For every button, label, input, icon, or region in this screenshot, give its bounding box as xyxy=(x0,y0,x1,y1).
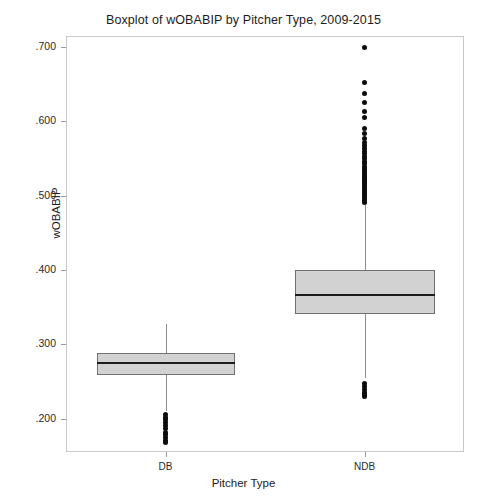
outlier-point xyxy=(362,80,367,85)
y-tick-mark xyxy=(61,121,66,122)
median-ndb xyxy=(295,294,435,296)
median-db xyxy=(97,362,235,364)
y-tick-label: .400 xyxy=(12,263,56,275)
outlier-point xyxy=(362,115,367,120)
y-tick-mark xyxy=(61,270,66,271)
whisker-lower-ndb xyxy=(365,314,366,378)
outlier-point xyxy=(163,440,168,445)
y-axis-title: wOBABIP xyxy=(50,153,62,273)
plot-area xyxy=(66,36,464,452)
y-tick-label: .200 xyxy=(12,412,56,424)
y-tick-label: .700 xyxy=(12,40,56,52)
x-axis-title: Pitcher Type xyxy=(0,477,487,489)
x-tick-label-db: DB xyxy=(126,461,206,472)
y-tick-label: .300 xyxy=(12,337,56,349)
y-tick-mark xyxy=(61,344,66,345)
y-tick-mark xyxy=(61,419,66,420)
outlier-point xyxy=(362,109,367,114)
y-tick-label: .500 xyxy=(12,189,56,201)
outlier-point xyxy=(362,394,367,399)
x-tick-label-ndb: NDB xyxy=(325,461,405,472)
y-tick-mark xyxy=(61,196,66,197)
boxplot-chart: Boxplot of wOBABIP by Pitcher Type, 2009… xyxy=(0,0,487,500)
whisker-lower-db xyxy=(166,375,167,411)
outlier-point xyxy=(362,45,367,50)
whisker-upper-db xyxy=(166,324,167,353)
whisker-upper-ndb xyxy=(365,205,366,270)
x-tick-mark xyxy=(365,452,366,457)
y-tick-mark xyxy=(61,47,66,48)
y-tick-label: .600 xyxy=(12,114,56,126)
x-tick-mark xyxy=(166,452,167,457)
outlier-point xyxy=(362,200,367,205)
box-ndb xyxy=(295,270,435,315)
outlier-point xyxy=(362,91,367,96)
chart-title: Boxplot of wOBABIP by Pitcher Type, 2009… xyxy=(0,13,487,27)
